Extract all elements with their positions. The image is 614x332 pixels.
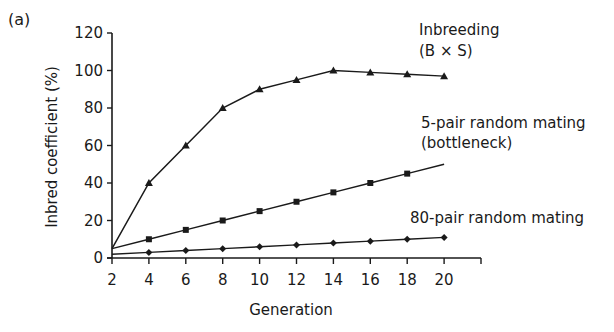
series-labels: Inbreeding (B × S) 5-pair random mating … [410,21,586,227]
series-3 [112,234,448,256]
series-line [112,164,444,248]
diamond-marker [256,243,263,250]
x-tick-label: 20 [435,271,454,289]
x-tick-label: 16 [361,271,380,289]
diamond-marker [367,238,374,245]
x-tick-label: 6 [181,271,191,289]
series-label-inbreeding-line2: (B × S) [419,42,473,60]
square-marker [220,218,226,224]
series-2 [112,164,444,248]
diamond-marker [330,240,337,247]
panel-label: (a) [8,10,30,29]
y-tick-label: 100 [74,62,103,80]
y-axis: 020406080100120 [74,24,112,267]
x-tick-label: 14 [324,271,343,289]
y-tick-label: 120 [74,24,103,42]
x-tick-label: 18 [398,271,417,289]
diamond-marker [182,247,189,254]
square-marker [294,199,300,205]
diamond-marker [145,249,152,256]
series-layer [112,67,448,256]
square-marker [330,189,336,195]
series-line [112,237,444,254]
square-marker [146,236,152,242]
x-axis-title: Generation [249,301,333,319]
x-tick-label: 4 [144,271,154,289]
diamond-marker [441,234,448,241]
y-tick-label: 20 [84,212,103,230]
diamond-marker [219,245,226,252]
series-1 [112,67,448,249]
series-label-80pair: 80-pair random mating [410,209,584,227]
series-line [112,71,444,249]
square-marker [257,208,263,214]
series-label-5pair-line2: (bottleneck) [421,134,512,152]
y-tick-label: 40 [84,174,103,192]
square-marker [367,180,373,186]
series-label-inbreeding-line1: Inbreeding [419,21,499,39]
diamond-marker [293,241,300,248]
y-tick-label: 80 [84,99,103,117]
x-tick-label: 12 [287,271,306,289]
x-tick-label: 8 [218,271,228,289]
diamond-marker [404,236,411,243]
y-axis-title: Inbred coefficient (%) [43,66,61,228]
x-tick-label: 10 [250,271,269,289]
square-marker [183,227,189,233]
y-tick-label: 60 [84,137,103,155]
x-tick-label: 2 [107,271,117,289]
line-chart: (a) 020406080100120 2468101214161820 Inb… [0,0,614,332]
chart-canvas: (a) 020406080100120 2468101214161820 Inb… [0,0,614,332]
x-axis: 2468101214161820 [107,258,481,289]
square-marker [404,171,410,177]
series-label-5pair-line1: 5-pair random mating [421,114,586,132]
y-tick-label: 0 [93,249,103,267]
triangle-marker [219,104,227,111]
